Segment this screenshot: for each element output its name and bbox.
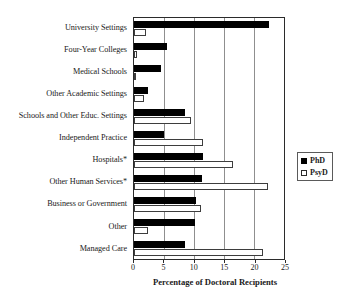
x-tick-label: 15	[220, 263, 228, 272]
bar-psyd	[134, 139, 203, 146]
category-label: Hospitals*	[0, 150, 130, 172]
bar-psyd	[134, 161, 233, 168]
bar-group	[134, 237, 284, 259]
legend-label: PsyD	[310, 168, 328, 177]
x-axis-ticks: 0510152025	[133, 260, 285, 274]
bar-psyd	[134, 249, 263, 256]
bar-group	[134, 215, 284, 237]
category-label: Other Academic Settings	[0, 83, 130, 105]
bar-phd	[134, 153, 203, 160]
bar-phd	[134, 87, 148, 94]
bar-phd	[134, 43, 167, 50]
bar-chart-figure: University SettingsFour-Year CollegesMed…	[0, 0, 349, 299]
bar-group	[134, 106, 284, 128]
x-tick-label: 5	[161, 263, 165, 272]
bar-psyd	[134, 227, 148, 234]
bar-phd	[134, 197, 196, 204]
bar-group	[134, 128, 284, 150]
legend-swatch-icon	[301, 170, 307, 176]
category-label: Managed Care	[0, 238, 130, 260]
bar-phd	[134, 109, 185, 116]
bar-group	[134, 84, 284, 106]
bar-psyd	[134, 205, 201, 212]
bar-psyd	[134, 73, 136, 80]
category-label: Other	[0, 216, 130, 238]
x-tick-label: 20	[251, 263, 259, 272]
bar-group	[134, 40, 284, 62]
legend-item-psyd: PsyD	[301, 168, 328, 177]
bar-psyd	[134, 117, 191, 124]
bar-psyd	[134, 95, 144, 102]
plot-area	[133, 17, 285, 260]
bar-phd	[134, 241, 185, 248]
bar-psyd	[134, 183, 268, 190]
legend-label: PhD	[310, 156, 325, 165]
category-label: University Settings	[0, 17, 130, 39]
legend-item-phd: PhD	[301, 156, 328, 165]
category-label: Business or Government	[0, 194, 130, 216]
bar-group	[134, 18, 284, 40]
category-label: Four-Year Colleges	[0, 39, 130, 61]
bar-phd	[134, 131, 164, 138]
chart-legend: PhDPsyD	[297, 152, 333, 181]
bar-phd	[134, 65, 161, 72]
bar-psyd	[134, 51, 137, 58]
x-axis-title: Percentage of Doctoral Recipients	[120, 277, 310, 287]
category-label: Other Human Services*	[0, 172, 130, 194]
bar-psyd	[134, 29, 146, 36]
bar-phd	[134, 175, 202, 182]
category-label: Schools and Other Educ. Settings	[0, 105, 130, 127]
x-tick-label: 10	[190, 263, 198, 272]
bar-phd	[134, 219, 195, 226]
x-tick-label: 0	[131, 263, 135, 272]
legend-swatch-icon	[301, 158, 307, 164]
bar-group	[134, 193, 284, 215]
category-label: Independent Practice	[0, 127, 130, 149]
category-label: Medical Schools	[0, 61, 130, 83]
bar-group	[134, 149, 284, 171]
bars-layer	[134, 18, 284, 259]
x-tick-label: 25	[281, 263, 289, 272]
bar-group	[134, 171, 284, 193]
bar-group	[134, 62, 284, 84]
bar-phd	[134, 21, 269, 28]
category-axis: University SettingsFour-Year CollegesMed…	[0, 17, 130, 260]
